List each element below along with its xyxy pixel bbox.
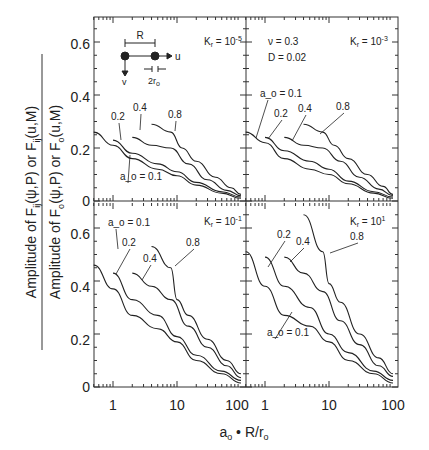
panel-label-kr-1e1: Kr = 101	[350, 215, 386, 228]
x-axis-label: ao • R/ro	[219, 424, 268, 442]
annotation-a08: 0.8	[186, 237, 200, 248]
annotation-a01: a_o = 0.1	[260, 88, 302, 99]
svg-text:10: 10	[321, 397, 337, 413]
svg-text:0.2: 0.2	[71, 142, 91, 158]
pile-group-inset: R u v 2ro	[121, 30, 181, 87]
svg-text:2ro: 2ro	[148, 76, 160, 87]
svg-text:0.4: 0.4	[71, 279, 91, 295]
curve-0.1	[246, 252, 393, 383]
curve-0.2	[265, 257, 393, 380]
svg-text:1: 1	[109, 397, 117, 413]
panel-frames	[94, 17, 398, 387]
svg-text:10: 10	[169, 397, 185, 413]
poisson-ratio-label: ν = 0.3	[268, 36, 299, 47]
curve-0.1	[94, 132, 241, 198]
annotation-a04: 0.4	[298, 103, 312, 114]
curve-0.4	[284, 257, 393, 376]
panel-label-kr-1e-1: Kr = 10-1	[204, 215, 242, 228]
svg-text:0: 0	[82, 193, 90, 209]
x-tick-labels: 110100 110100	[109, 397, 405, 413]
y-axis-label: Amplitude of Fij(ψ,P) or Fij(u,M) Amplit…	[23, 54, 66, 350]
data-curves	[94, 124, 393, 383]
svg-text:R: R	[136, 30, 143, 41]
annotation-a02: 0.2	[111, 111, 125, 122]
svg-text:0.4: 0.4	[71, 89, 91, 105]
chart-figure: 0.60.40.20 0.60.40.20 110100 110100 ao •…	[0, 0, 429, 450]
y-tick-labels: 0.60.40.20 0.60.40.20	[71, 36, 91, 395]
annotation-a08: 0.8	[168, 109, 182, 120]
svg-text:0.2: 0.2	[71, 332, 91, 348]
svg-text:0.6: 0.6	[71, 36, 91, 52]
svg-text:1: 1	[261, 397, 269, 413]
svg-text:100: 100	[381, 397, 405, 413]
curve-annotations: a_o = 0.10.20.40.8a_o = 0.10.20.40.8a_o …	[108, 88, 364, 339]
svg-text:100: 100	[225, 397, 249, 413]
annotation-a01: a_o = 0.1	[267, 327, 309, 338]
annotation-a02: 0.2	[277, 229, 291, 240]
svg-text:v: v	[122, 77, 127, 87]
curve-0.8	[304, 215, 394, 374]
annotation-a02: 0.2	[274, 108, 288, 119]
svg-text:0: 0	[82, 379, 90, 395]
svg-text:0.6: 0.6	[71, 226, 91, 242]
annotation-a08: 0.8	[350, 231, 364, 242]
panel-label-kr-1e-5: Kr = 10-5	[204, 35, 242, 48]
svg-text:u: u	[175, 51, 181, 62]
curve-0.8	[152, 124, 242, 194]
annotation-a02: 0.2	[122, 237, 136, 248]
annotation-a04: 0.4	[133, 102, 147, 113]
annotation-a04: 0.4	[296, 236, 310, 247]
annotation-a01: a_o = 0.1	[108, 217, 150, 228]
svg-text:Amplitude of Fij(ψ,P) or Fij(u: Amplitude of Fij(ψ,P) or Fij(u,M)	[23, 106, 42, 298]
panel-label-kr-1e-3: Kr = 10-3	[350, 35, 388, 48]
annotation-a08: 0.8	[336, 101, 350, 112]
damping-label: D = 0.02	[268, 52, 307, 63]
curve-0.1	[94, 265, 241, 383]
svg-text:Amplitude of Fo(ψ,P) or Fo(u,M: Amplitude of Fo(ψ,P) or Fo(u,M)	[47, 105, 66, 299]
annotation-a04: 0.4	[143, 253, 157, 264]
annotation-a01: a_o = 0.1	[120, 171, 162, 182]
